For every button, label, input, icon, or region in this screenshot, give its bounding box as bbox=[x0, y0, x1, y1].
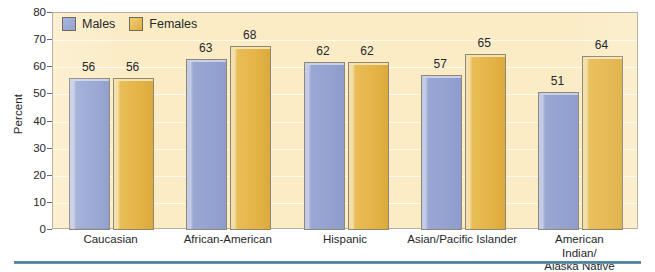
x-axis-label: Asian/Pacific Islander bbox=[407, 233, 517, 247]
bar-males bbox=[186, 59, 227, 230]
bar-value-label: 57 bbox=[434, 57, 447, 71]
x-axis-label: Caucasian bbox=[83, 233, 137, 247]
bar-females bbox=[582, 56, 623, 230]
bottom-divider-rule bbox=[14, 261, 641, 264]
bar-value-label: 56 bbox=[126, 60, 139, 74]
bar-value-label: 68 bbox=[243, 28, 256, 42]
legend-item-males: Males bbox=[62, 17, 115, 31]
legend-item-females: Females bbox=[129, 17, 197, 31]
bar-face bbox=[187, 60, 226, 229]
bar-top-highlight bbox=[305, 63, 344, 65]
bar-value-label: 51 bbox=[551, 74, 564, 88]
bar-value-label: 62 bbox=[360, 44, 373, 58]
bar-males bbox=[304, 62, 345, 230]
bar-face bbox=[422, 76, 461, 229]
bar-females bbox=[113, 78, 154, 230]
gridline bbox=[53, 67, 637, 68]
legend-label-females: Females bbox=[149, 17, 197, 31]
bar-females bbox=[230, 46, 271, 230]
bar-value-label: 63 bbox=[199, 41, 212, 55]
bar-value-label: 62 bbox=[316, 44, 329, 58]
y-axis-tick-label: 40 bbox=[20, 115, 46, 127]
y-axis-tick-label: 80 bbox=[20, 6, 46, 18]
chart-legend: Males Females bbox=[62, 17, 197, 31]
plot-area bbox=[52, 12, 638, 229]
y-axis-tick-label: 50 bbox=[20, 87, 46, 99]
gridline bbox=[53, 40, 637, 41]
y-axis-tick-mark bbox=[47, 229, 52, 230]
bar-face bbox=[231, 47, 270, 229]
bar-top-highlight bbox=[539, 93, 578, 95]
x-axis-label: American Indian/ Alaska Native bbox=[542, 233, 618, 272]
bar-males bbox=[69, 78, 110, 230]
bar-face bbox=[305, 63, 344, 229]
bar-top-highlight bbox=[231, 47, 270, 49]
bar-face bbox=[539, 93, 578, 229]
bar-face bbox=[70, 79, 109, 229]
bar-top-highlight bbox=[70, 79, 109, 81]
bar-chart-figure: Percent 01020304050607080 CaucasianAfric… bbox=[0, 0, 655, 272]
bar-top-highlight bbox=[187, 60, 226, 62]
bar-face bbox=[114, 79, 153, 229]
bar-face bbox=[466, 55, 505, 229]
y-axis-tick-label: 60 bbox=[20, 60, 46, 72]
y-axis-tick-label: 30 bbox=[20, 142, 46, 154]
bar-face bbox=[583, 57, 622, 229]
bar-value-label: 56 bbox=[82, 60, 95, 74]
bar-top-highlight bbox=[583, 57, 622, 59]
bar-top-highlight bbox=[422, 76, 461, 78]
bar-top-highlight bbox=[466, 55, 505, 57]
bar-value-label: 65 bbox=[478, 36, 491, 50]
bar-value-label: 64 bbox=[595, 38, 608, 52]
x-axis-label: African-American bbox=[184, 233, 272, 247]
bar-males bbox=[538, 92, 579, 230]
bar-males bbox=[421, 75, 462, 230]
x-axis-label: Hispanic bbox=[323, 233, 367, 247]
bar-top-highlight bbox=[114, 79, 153, 81]
y-axis-tick-label: 10 bbox=[20, 196, 46, 208]
bar-females bbox=[465, 54, 506, 230]
legend-label-males: Males bbox=[82, 17, 115, 31]
bar-face bbox=[349, 63, 388, 229]
bar-females bbox=[348, 62, 389, 230]
y-axis-tick-label: 20 bbox=[20, 169, 46, 181]
y-axis-tick-label: 0 bbox=[20, 223, 46, 235]
bar-top-highlight bbox=[349, 63, 388, 65]
female-swatch-icon bbox=[129, 17, 143, 31]
male-swatch-icon bbox=[62, 17, 76, 31]
y-axis-tick-label: 70 bbox=[20, 33, 46, 45]
